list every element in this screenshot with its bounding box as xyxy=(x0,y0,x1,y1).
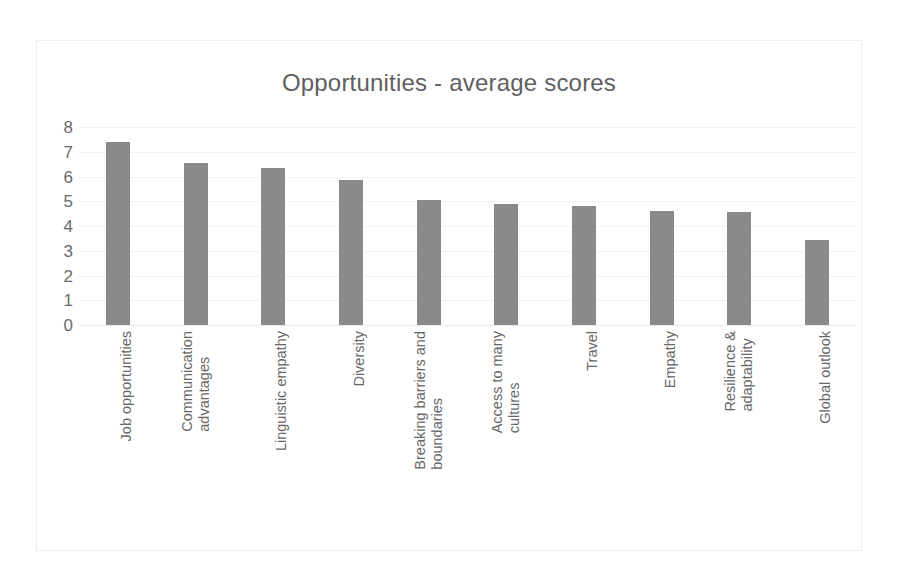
x-axis-label-line: Access to many xyxy=(489,331,505,433)
bar[interactable] xyxy=(494,204,518,325)
bar[interactable] xyxy=(805,240,829,325)
y-axis: 876543210 xyxy=(47,127,73,325)
y-tick-label: 8 xyxy=(64,119,73,136)
x-axis-label-line: Communication xyxy=(178,331,194,432)
bar[interactable] xyxy=(339,180,363,325)
x-axis-label-line: Breaking barriers and xyxy=(412,331,428,470)
x-axis-label: Resilience &adaptability xyxy=(722,331,756,412)
x-axis-label-line: cultures xyxy=(506,331,523,433)
x-axis-label-line: adaptability xyxy=(739,331,756,412)
x-axis-label-line: Global outlook xyxy=(817,331,833,424)
x-axis-label-line: Empathy xyxy=(662,331,678,388)
x-label-slot: Job opportunities xyxy=(106,331,130,546)
x-axis-label: Linguistic empathy xyxy=(273,331,290,451)
x-label-slot: Global outlook xyxy=(805,331,829,546)
x-axis-label-line: Diversity xyxy=(351,331,367,387)
bar[interactable] xyxy=(650,211,674,325)
x-axis-label-line: Travel xyxy=(584,331,600,371)
x-axis-label: Global outlook xyxy=(817,331,834,424)
bar[interactable] xyxy=(727,212,751,325)
x-axis-label-line: Job opportunities xyxy=(118,331,134,441)
x-label-slot: Linguistic empathy xyxy=(261,331,285,546)
x-axis-label: Job opportunities xyxy=(118,331,135,441)
y-tick-label: 6 xyxy=(64,168,73,185)
x-axis-labels: Job opportunitiesCommunicationadvantages… xyxy=(79,331,856,546)
y-tick-label: 5 xyxy=(64,193,73,210)
y-tick-label: 0 xyxy=(64,317,73,334)
x-label-slot: Diversity xyxy=(339,331,363,546)
x-label-slot: Access to manycultures xyxy=(494,331,518,546)
plot-area: 876543210 Job opportunitiesCommunication… xyxy=(37,41,861,550)
x-axis-label: Travel xyxy=(584,331,601,371)
x-label-slot: Communicationadvantages xyxy=(184,331,208,546)
x-axis-label: Access to manycultures xyxy=(489,331,523,433)
x-axis-label: Diversity xyxy=(351,331,368,387)
y-tick-label: 3 xyxy=(64,242,73,259)
bar[interactable] xyxy=(572,206,596,325)
bar[interactable] xyxy=(184,163,208,325)
bar[interactable] xyxy=(261,168,285,325)
x-label-slot: Resilience &adaptability xyxy=(727,331,751,546)
x-label-slot: Breaking barriers andboundaries xyxy=(417,331,441,546)
chart-container: Opportunities - average scores 876543210… xyxy=(36,40,862,551)
x-axis-label-line: advantages xyxy=(196,331,213,432)
x-axis-label-line: Resilience & xyxy=(722,331,738,412)
bar[interactable] xyxy=(417,200,441,325)
bar[interactable] xyxy=(106,142,130,325)
y-tick-label: 1 xyxy=(64,292,73,309)
x-axis-label: Communicationadvantages xyxy=(178,331,212,432)
y-tick-label: 2 xyxy=(64,267,73,284)
bar-series xyxy=(79,127,856,325)
x-axis-label-line: boundaries xyxy=(429,331,446,470)
y-tick-label: 4 xyxy=(64,218,73,235)
x-label-slot: Travel xyxy=(572,331,596,546)
y-tick-label: 7 xyxy=(64,143,73,160)
x-axis-label: Breaking barriers andboundaries xyxy=(412,331,446,470)
x-label-slot: Empathy xyxy=(650,331,674,546)
x-axis-label-line: Linguistic empathy xyxy=(273,331,289,451)
gridline-0 xyxy=(79,325,856,326)
x-axis-label: Empathy xyxy=(662,331,679,388)
